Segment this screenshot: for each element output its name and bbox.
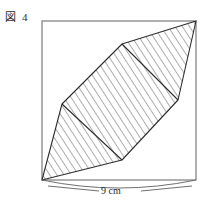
figure-4-diagram: 図4 9 cm	[0, 0, 212, 208]
geometry-drawing	[0, 0, 212, 208]
dimension-label: 9 cm	[101, 186, 121, 196]
